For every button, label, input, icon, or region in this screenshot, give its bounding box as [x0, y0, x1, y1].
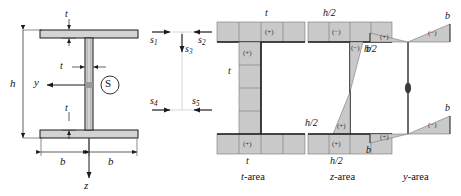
y-area-label-top-left: b — [366, 44, 371, 54]
axis-label-y: y — [34, 77, 39, 88]
label-s4: s4 — [150, 96, 158, 108]
y-area-label-top-right: b — [445, 11, 450, 21]
label-width-b-left: b — [60, 156, 66, 167]
t-area-sign-web: (+) — [243, 50, 252, 57]
t-area-diagram — [217, 22, 305, 154]
engineering-figure: t t t h b b y z S s1 s2 s3 s4 s5 t t t (… — [0, 0, 461, 196]
t-area-label-bottom: t — [246, 156, 249, 166]
centroid-label-s: S — [105, 78, 111, 89]
t-area-sign-top-flange: (+) — [265, 29, 274, 36]
label-s1: s1 — [150, 35, 158, 47]
z-area-sign-web-upper: (−) — [351, 45, 360, 52]
t-area-label-web: t — [228, 66, 231, 76]
z-area-label-top: h/2 — [323, 8, 336, 18]
y-area-sign-bottom-right: (−) — [428, 122, 437, 129]
label-flange-thickness-bottom: t — [65, 103, 68, 113]
cross-section-ibeam — [23, 19, 138, 178]
z-area-sign-bottom-flange: (+) — [332, 141, 341, 148]
label-s5: s5 — [192, 96, 200, 108]
figure-canvas — [0, 0, 461, 196]
y-area-label-bottom-left: b — [366, 145, 371, 155]
label-s3: s3 — [185, 44, 193, 56]
caption-t-area-rest: -area — [244, 171, 265, 182]
label-web-thickness: t — [60, 61, 63, 71]
caption-y-area: y-area — [403, 172, 429, 183]
y-area-sign-bottom-left: (+) — [380, 134, 389, 141]
z-area-label-bottom: h/2 — [330, 156, 343, 166]
caption-t-area: t-area — [241, 172, 265, 183]
z-area-sign-top-flange: (−) — [332, 29, 341, 36]
y-area-diagram — [370, 24, 450, 143]
label-width-b-right: b — [108, 156, 114, 167]
caption-z-area-rest: -area — [334, 171, 355, 182]
t-area-label-top: t — [265, 8, 268, 18]
y-area-sign-top-left: (+) — [380, 34, 389, 41]
t-area-sign-bottom-flange: (+) — [243, 141, 252, 148]
y-area-label-bottom-right: b — [445, 103, 450, 113]
label-height-h: h — [10, 78, 16, 89]
axis-label-z: z — [84, 180, 88, 191]
y-area-sign-top-right: (−) — [428, 30, 437, 37]
label-s2: s2 — [198, 35, 206, 47]
z-area-label-web-lower: h/2 — [305, 118, 318, 128]
z-area-sign-web-lower: (+) — [337, 123, 346, 130]
label-flange-thickness-top: t — [65, 9, 68, 19]
caption-y-area-rest: -area — [408, 171, 429, 182]
caption-z-area: z-area — [330, 172, 355, 183]
